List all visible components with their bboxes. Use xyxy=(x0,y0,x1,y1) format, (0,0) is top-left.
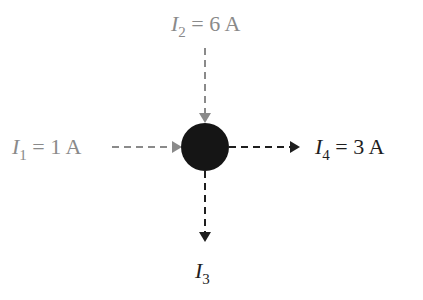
arrow-i1-in xyxy=(112,141,182,153)
arrow-i2-in xyxy=(199,48,211,123)
subscript-i1: 1 xyxy=(19,147,27,163)
arrow-i3-out xyxy=(199,171,211,242)
subscript-i4: 4 xyxy=(322,147,330,163)
label-i2: I2 = 6 A xyxy=(171,13,240,40)
subscript-i3: 3 xyxy=(202,271,210,287)
subscript-i2: 2 xyxy=(178,24,186,40)
label-i1: I1 = 1 A xyxy=(12,136,81,163)
value-i1: = 1 A xyxy=(32,134,81,159)
label-i4: I4 = 3 A xyxy=(315,136,384,163)
value-i2: = 6 A xyxy=(191,11,240,36)
arrow-i4-out xyxy=(229,141,300,153)
junction-node xyxy=(181,123,229,171)
label-i3: I3 xyxy=(195,260,210,287)
value-i4: = 3 A xyxy=(335,134,384,159)
